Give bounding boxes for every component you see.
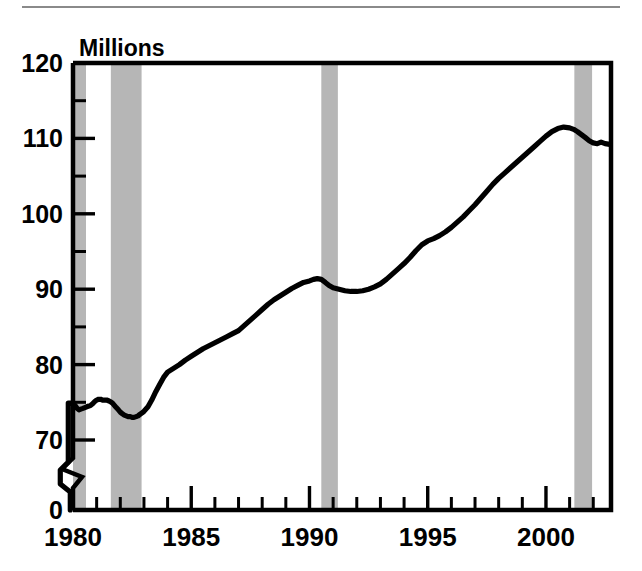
chart-figure: 0708090100110120 19801985199019952000 Mi… <box>0 0 642 571</box>
y-tick-label: 90 <box>35 275 63 303</box>
line-chart: 0708090100110120 19801985199019952000 Mi… <box>0 0 642 571</box>
top-horizontal-rule <box>22 6 620 8</box>
recession-band <box>111 63 142 510</box>
x-tick-label: 1985 <box>162 522 220 552</box>
y-tick-label: 100 <box>21 200 63 228</box>
y-axis-units-label: Millions <box>79 35 165 61</box>
x-axis-tick-labels: 19801985199019952000 <box>44 522 575 552</box>
y-tick-label: 110 <box>23 124 63 152</box>
x-tick-label: 1990 <box>281 522 339 552</box>
x-tick-label: 1980 <box>44 522 102 552</box>
plot-frame <box>73 63 611 510</box>
y-axis-tick-labels: 0708090100110120 <box>21 49 63 524</box>
x-tick-label: 2000 <box>517 522 575 552</box>
x-axis-ticks <box>97 486 594 510</box>
series-path-employment <box>73 127 610 417</box>
y-tick-label: 120 <box>21 49 63 77</box>
x-tick-label: 1995 <box>399 522 457 552</box>
y-tick-label: 0 <box>49 496 63 524</box>
y-tick-label: 80 <box>35 351 63 379</box>
y-tick-label: 70 <box>35 426 63 454</box>
